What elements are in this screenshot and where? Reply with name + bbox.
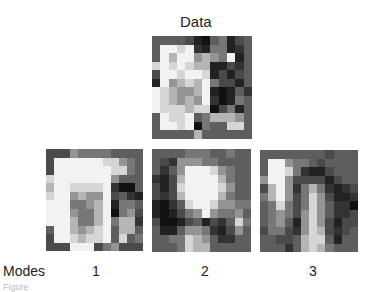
pixel-cell (177, 243, 185, 252)
pixel-cell (111, 149, 119, 158)
pixel-cell (94, 158, 102, 167)
pixel-cell (152, 226, 160, 235)
mode-1-image-panel (46, 149, 143, 251)
pixel-cell (218, 200, 226, 209)
pixel-cell (202, 70, 210, 79)
pixel-cell (119, 209, 127, 218)
pixel-cell (135, 166, 143, 175)
pixel-cell (86, 149, 94, 158)
pixel-cell (285, 201, 293, 210)
pixel-cell (293, 193, 301, 202)
pixel-cell (135, 183, 143, 192)
pixel-cell (325, 167, 333, 176)
pixel-cell (260, 150, 268, 159)
pixel-cell (103, 183, 111, 192)
pixel-cell (227, 96, 235, 105)
pixel-cell (301, 244, 309, 253)
pixel-cell (268, 150, 276, 159)
pixel-cell (350, 201, 358, 210)
pixel-cell (111, 234, 119, 243)
pixel-cell (194, 105, 202, 114)
pixel-cell (152, 36, 160, 45)
pixel-cell (152, 158, 160, 167)
pixel-cell (111, 217, 119, 226)
pixel-cell (78, 166, 86, 175)
pixel-cell (227, 87, 235, 96)
pixel-cell (193, 192, 201, 201)
pixel-cell (160, 62, 168, 71)
pixel-cell (301, 150, 309, 159)
pixel-cell (219, 87, 227, 96)
pixel-cell (127, 217, 135, 226)
pixel-cell (78, 226, 86, 235)
pixel-cell (219, 53, 227, 62)
pixel-cell (317, 227, 325, 236)
pixel-cell (169, 175, 177, 184)
pixel-cell (210, 209, 218, 218)
pixel-cell (260, 193, 268, 202)
pixel-cell (325, 150, 333, 159)
pixel-cell (152, 243, 160, 252)
pixel-cell (309, 235, 317, 244)
pixel-cell (78, 149, 86, 158)
pixel-cell (194, 130, 202, 139)
pixel-cell (235, 62, 243, 71)
pixel-cell (194, 45, 202, 54)
pixel-cell (152, 218, 160, 227)
pixel-cell (235, 96, 243, 105)
pixel-cell (177, 218, 185, 227)
pixel-cell (78, 192, 86, 201)
pixel-cell (210, 70, 218, 79)
pixel-cell (193, 158, 201, 167)
pixel-cell (119, 149, 127, 158)
pixel-cell (210, 200, 218, 209)
pixel-cell (227, 36, 235, 45)
pixel-cell (210, 175, 218, 184)
pixel-cell (317, 235, 325, 244)
pixel-cell (169, 79, 177, 88)
pixel-cell (94, 209, 102, 218)
pixel-cell (169, 45, 177, 54)
pixel-cell (301, 227, 309, 236)
pixel-cell (169, 166, 177, 175)
pixel-cell (325, 159, 333, 168)
pixel-cell (152, 70, 160, 79)
pixel-cell (210, 192, 218, 201)
pixel-cell (103, 166, 111, 175)
pixel-cell (78, 200, 86, 209)
pixel-cell (169, 183, 177, 192)
pixel-cell (293, 159, 301, 168)
pixel-cell (268, 201, 276, 210)
pixel-cell (135, 200, 143, 209)
pixel-cell (219, 96, 227, 105)
pixel-cell (260, 218, 268, 227)
pixel-cell (317, 167, 325, 176)
pixel-cell (285, 244, 293, 253)
pixel-cell (103, 226, 111, 235)
pixel-cell (152, 192, 160, 201)
pixel-cell (202, 209, 210, 218)
pixel-cell (70, 200, 78, 209)
pixel-cell (227, 79, 235, 88)
pixel-cell (243, 209, 251, 218)
pixel-cell (119, 226, 127, 235)
pixel-cell (309, 218, 317, 227)
pixel-cell (177, 226, 185, 235)
pixel-cell (309, 176, 317, 185)
pixel-cell (260, 201, 268, 210)
pixel-cell (268, 159, 276, 168)
pixel-cell (317, 184, 325, 193)
pixel-cell (54, 183, 62, 192)
pixel-cell (169, 192, 177, 201)
mode-3-image-panel (260, 150, 358, 252)
pixel-cell (268, 218, 276, 227)
pixel-cell (185, 149, 193, 158)
pixel-cell (202, 36, 210, 45)
pixel-cell (70, 175, 78, 184)
pixel-cell (235, 122, 243, 131)
pixel-cell (325, 201, 333, 210)
pixel-cell (185, 130, 193, 139)
pixel-cell (235, 183, 243, 192)
data-image-panel (152, 36, 252, 139)
pixel-cell (119, 234, 127, 243)
